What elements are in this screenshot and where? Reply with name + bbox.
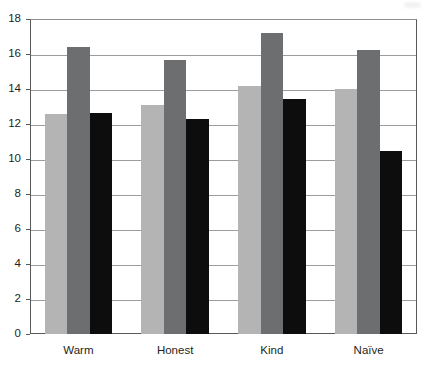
x-axis-category-label-kind: Kind [224, 344, 321, 357]
gridline-14 [31, 90, 416, 91]
gridline-10 [31, 160, 416, 161]
y-axis-tick-label-18: 18 [0, 13, 21, 25]
y-axis-tick-mark-2 [26, 299, 30, 300]
y-axis-tick-label-8: 8 [0, 188, 21, 200]
y-axis-tick-mark-16 [26, 54, 30, 55]
y-axis-tick-mark-12 [26, 124, 30, 125]
plot-area [30, 19, 417, 334]
y-axis-tick-mark-18 [26, 19, 30, 20]
y-axis-tick-mark-6 [26, 229, 30, 230]
y-axis-tick-mark-10 [26, 159, 30, 160]
y-axis-tick-label-16: 16 [0, 48, 21, 60]
y-axis-tick-label-2: 2 [0, 293, 21, 305]
y-axis-tick-mark-0 [26, 334, 30, 335]
gridline-12 [31, 125, 416, 126]
y-axis-tick-label-10: 10 [0, 153, 21, 165]
y-axis-tick-label-4: 4 [0, 258, 21, 270]
gridline-2 [31, 300, 416, 301]
x-axis-category-label-honest: Honest [127, 344, 224, 357]
gridline-8 [31, 195, 416, 196]
gridline-4 [31, 265, 416, 266]
y-axis-tick-label-0: 0 [0, 328, 21, 340]
gridline-16 [31, 55, 416, 56]
y-axis-tick-mark-8 [26, 194, 30, 195]
x-axis-category-label-warm: Warm [30, 344, 127, 357]
bar-chart: 024681012141618 WarmHonestKindNaïve [0, 0, 433, 371]
y-axis-tick-label-12: 12 [0, 118, 21, 130]
x-axis-category-label-nave: Naïve [320, 344, 417, 357]
gridline-6 [31, 230, 416, 231]
y-axis-tick-label-14: 14 [0, 83, 21, 95]
y-axis-tick-mark-4 [26, 264, 30, 265]
y-axis-tick-mark-14 [26, 89, 30, 90]
scan-artifact [404, 2, 421, 8]
y-axis-tick-label-6: 6 [0, 223, 21, 235]
